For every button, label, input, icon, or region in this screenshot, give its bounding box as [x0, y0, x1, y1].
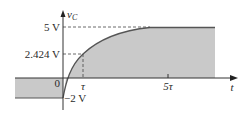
- tau-label: τ: [81, 80, 86, 92]
- vc-response-diagram: vC 5 V 2.424 V 0 −2 V τ 5τ t: [0, 0, 249, 119]
- tau-value-label: 2.424 V: [25, 48, 60, 60]
- five-tau-label: 5τ: [163, 80, 174, 92]
- x-axis-label: t: [230, 81, 234, 93]
- v-axis-arrow-icon: [61, 10, 66, 17]
- y-axis-label: vC: [67, 8, 78, 22]
- origin-label: 0: [55, 77, 61, 89]
- initial-value-label: −2 V: [64, 92, 86, 104]
- final-value-label: 5 V: [44, 21, 60, 33]
- charging-shading: [63, 28, 215, 99]
